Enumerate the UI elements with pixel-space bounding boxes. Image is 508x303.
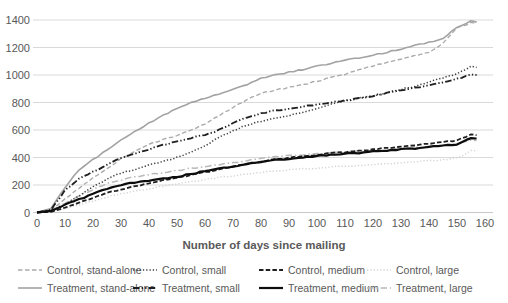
- legend-label: Treatment, medium: [288, 282, 379, 294]
- series-line-treatment-stand-alone: [37, 21, 477, 213]
- x-tick-label: 60: [199, 217, 211, 229]
- legend-label: Treatment, small: [162, 282, 240, 294]
- legend-label: Treatment, large: [396, 282, 473, 294]
- series-line-control-large: [37, 150, 477, 212]
- legend-marker-control-large: [367, 264, 391, 276]
- legend-item-control-medium: Control, medium: [259, 264, 365, 276]
- x-tick-label: 10: [59, 217, 71, 229]
- legend-marker-treatment-large: [367, 282, 391, 294]
- x-tick-label: 70: [227, 217, 239, 229]
- legend-item-treatment-small: Treatment, small: [133, 282, 240, 294]
- legend-label: Treatment, stand-alone: [47, 282, 155, 294]
- series-line-treatment-large: [37, 140, 477, 213]
- y-tick-label: 800: [12, 97, 30, 109]
- series-line-control-stand-alone: [37, 22, 477, 212]
- legend-item-treatment-large: Treatment, large: [367, 282, 473, 294]
- x-tick-label: 30: [115, 217, 127, 229]
- y-tick-label: 1400: [6, 14, 30, 26]
- x-tick-label: 90: [283, 217, 295, 229]
- legend-item-treatment-stand-alone: Treatment, stand-alone: [18, 282, 155, 294]
- y-tick-label: 1200: [6, 42, 30, 54]
- y-tick-label: 1000: [6, 69, 30, 81]
- legend-marker-treatment-medium: [259, 282, 283, 294]
- x-axis-title: Number of days since mailing: [0, 239, 508, 251]
- x-tick-label: 140: [420, 217, 438, 229]
- x-tick-label: 110: [336, 217, 354, 229]
- legend-label: Control, small: [162, 264, 226, 276]
- x-tick-label: 0: [34, 217, 40, 229]
- legend-marker-control-medium: [259, 264, 283, 276]
- y-tick-label: 600: [12, 124, 30, 136]
- y-tick-label: 400: [12, 152, 30, 164]
- legend-item-treatment-medium: Treatment, medium: [259, 282, 379, 294]
- x-tick-label: 80: [255, 217, 267, 229]
- x-tick-label: 50: [171, 217, 183, 229]
- legend-item-control-small: Control, small: [133, 264, 226, 276]
- cumulative-response-chart: 0200400600800100012001400010203040506070…: [0, 0, 508, 303]
- legend-marker-control-small: [133, 264, 157, 276]
- plot-area: 0200400600800100012001400010203040506070…: [0, 0, 508, 236]
- legend-marker-treatment-small: [133, 282, 157, 294]
- legend-marker-treatment-stand-alone: [18, 282, 42, 294]
- y-tick-label: 200: [12, 179, 30, 191]
- x-tick-label: 100: [308, 217, 326, 229]
- legend-marker-control-stand-alone: [18, 264, 42, 276]
- series-line-treatment-medium: [37, 138, 477, 212]
- x-tick-label: 160: [476, 217, 494, 229]
- y-tick-label: 0: [24, 207, 30, 219]
- x-tick-label: 40: [143, 217, 155, 229]
- legend-label: Control, large: [396, 264, 459, 276]
- legend-label: Control, medium: [288, 264, 365, 276]
- x-tick-label: 130: [392, 217, 410, 229]
- legend-item-control-stand-alone: Control, stand-alone: [18, 264, 142, 276]
- x-tick-label: 150: [448, 217, 466, 229]
- x-tick-label: 20: [87, 217, 99, 229]
- legend-label: Control, stand-alone: [47, 264, 142, 276]
- legend-item-control-large: Control, large: [367, 264, 459, 276]
- x-tick-label: 120: [364, 217, 382, 229]
